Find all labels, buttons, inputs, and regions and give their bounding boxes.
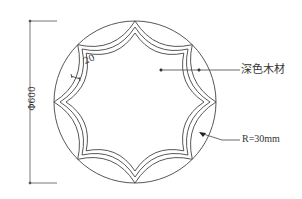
material-leader [160, 69, 240, 71]
radius-leader [199, 132, 240, 140]
material-label: 深色木材 [241, 64, 285, 75]
thickness-dimension [71, 74, 80, 81]
star-outline-outer [54, 21, 216, 183]
drawing-canvas [0, 0, 302, 199]
diameter-label: Φ600 [28, 79, 37, 119]
star-outline-middle [60, 27, 210, 177]
outer-circle [54, 21, 216, 183]
radius-label: R=30mm [242, 134, 280, 144]
